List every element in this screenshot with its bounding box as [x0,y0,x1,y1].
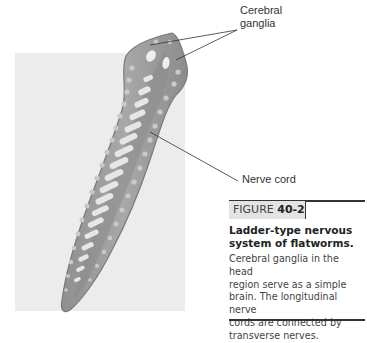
caption-title-line: Ladder-type nervous [229,224,365,237]
label-line: Cerebral [240,4,282,17]
caption-bottom-rule [229,319,365,321]
caption-body-line: brain. The longitudinal nerve [229,291,365,317]
caption-body-line: Cerebral ganglia in the head [229,253,365,279]
label-line: ganglia [240,17,282,30]
figure-number-tab: FIGURE 40-2 [229,201,306,219]
label-cerebral-ganglia: Cerebral ganglia [240,4,282,30]
caption-body: Cerebral ganglia in the head region serv… [229,253,365,343]
caption-body-line: region serve as a simple [229,279,365,292]
figure-number: 40-2 [277,203,305,216]
figure-prefix: FIGURE [233,203,277,216]
caption-body-line: transverse nerves. [229,330,365,343]
caption-title: Ladder-type nervous system of flatworms. [229,224,365,250]
label-nerve-cord: Nerve cord [242,173,296,186]
caption-title-line: system of flatworms. [229,237,365,250]
